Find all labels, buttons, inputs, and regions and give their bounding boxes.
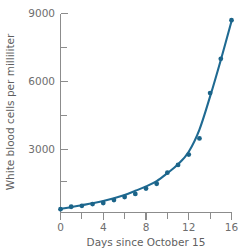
exponential-fit-curve <box>61 21 232 209</box>
data-point <box>69 204 74 209</box>
data-point <box>101 201 106 206</box>
data-point <box>133 192 138 197</box>
data-point <box>90 202 95 207</box>
data-point <box>79 203 84 208</box>
data-point <box>112 198 117 203</box>
data-point <box>154 181 159 186</box>
y-axis-title: White blood cells per milliliter <box>4 33 16 190</box>
x-tick-label-4: 4 <box>100 221 107 233</box>
y-axis: 9000 6000 3000 White blood cells per mil… <box>4 7 68 213</box>
data-point <box>144 186 149 191</box>
data-point-group <box>58 18 234 212</box>
y-tick-label-9000: 9000 <box>28 7 55 19</box>
x-axis: 0 4 8 12 16 Days since October 15 <box>57 213 238 249</box>
y-tick-label-3000: 3000 <box>28 143 55 155</box>
data-point <box>208 91 213 96</box>
data-point <box>197 136 202 141</box>
x-tick-label-12: 12 <box>182 221 195 233</box>
white-blood-cell-growth-chart: 9000 6000 3000 White blood cells per mil… <box>0 0 244 251</box>
data-point <box>58 207 63 212</box>
data-point <box>186 152 191 157</box>
y-tick-label-6000: 6000 <box>28 75 55 87</box>
x-axis-title: Days since October 15 <box>87 236 206 248</box>
x-tick-label-16: 16 <box>225 221 239 233</box>
data-point <box>229 18 234 23</box>
chart-figure: 9000 6000 3000 White blood cells per mil… <box>0 0 244 251</box>
data-point <box>122 195 127 200</box>
x-tick-label-0: 0 <box>57 221 64 233</box>
x-tick-label-8: 8 <box>143 221 150 233</box>
data-point <box>165 170 170 175</box>
data-point <box>218 56 223 61</box>
data-point <box>176 163 181 168</box>
